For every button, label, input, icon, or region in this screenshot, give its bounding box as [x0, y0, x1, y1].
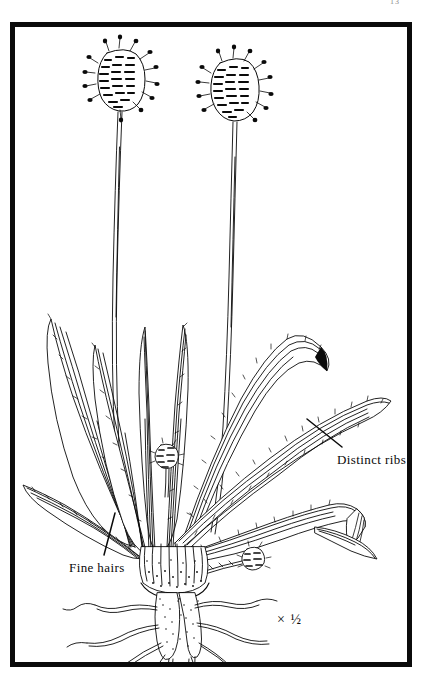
page-number: 13: [390, 0, 400, 5]
plate-frame: Distinct ribs Fine hairs × ½: [10, 22, 412, 667]
annotation-fine-hairs: Fine hairs: [69, 560, 125, 576]
leaf-center-left: [139, 327, 155, 551]
scale-notation: × ½: [277, 612, 302, 628]
illustration-page: 13: [0, 0, 422, 684]
flower-spike-right: [195, 45, 273, 123]
annotation-distinct-ribs: Distinct ribs: [337, 452, 406, 468]
flower-spike-left: [82, 35, 159, 123]
root-system: [63, 593, 277, 662]
leaf-center: [167, 323, 188, 547]
plant-crown: [139, 544, 209, 599]
